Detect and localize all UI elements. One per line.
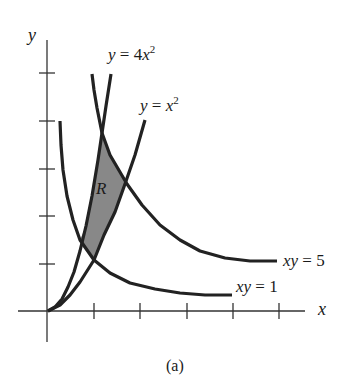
curve-xy-equals-5	[92, 74, 277, 261]
label-y-equals-4x-squared: y = 4x2	[108, 44, 155, 63]
label-y-equals-x-squared: y = x2	[140, 95, 179, 114]
diagram-canvas	[0, 0, 355, 392]
label-xy-equals-5: xy = 5	[283, 252, 325, 269]
y-axis-label: y	[28, 26, 36, 44]
region-label-r: R	[96, 180, 106, 197]
figure-caption: (a)	[166, 357, 184, 375]
x-axis-label: x	[318, 300, 326, 318]
label-xy-equals-1: xy = 1	[236, 278, 278, 295]
